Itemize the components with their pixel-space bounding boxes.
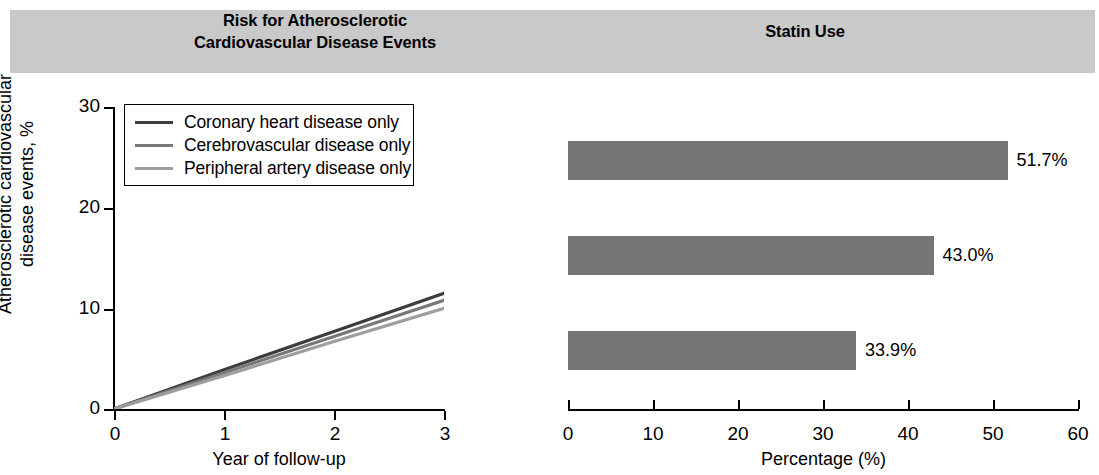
right-x-tick-label-60: 60 — [1055, 423, 1099, 445]
right-x-tick-0 — [568, 400, 570, 409]
bar-value-label-1: 51.7% — [1017, 150, 1068, 171]
bar-statin-use-3 — [568, 331, 856, 370]
right-x-axis-title: Percentage (%) — [568, 449, 1079, 470]
bar-statin-use-2 — [568, 236, 934, 275]
right-x-tick-label-50: 50 — [970, 423, 1016, 445]
right-x-tick-20 — [738, 400, 740, 409]
right-x-tick-label-10: 10 — [630, 423, 676, 445]
right-x-tick-60 — [1078, 400, 1080, 409]
right-x-axis-line — [568, 409, 1079, 411]
statin-bar-chart-panel: 0 10 20 30 40 50 60 Percentage (%) 51.7%… — [0, 0, 1099, 475]
right-x-tick-40 — [908, 400, 910, 409]
bar-value-label-3: 33.9% — [865, 340, 916, 361]
right-x-tick-label-20: 20 — [715, 423, 761, 445]
right-x-tick-30 — [823, 400, 825, 409]
right-x-tick-label-40: 40 — [885, 423, 931, 445]
right-x-tick-10 — [653, 400, 655, 409]
bar-value-label-2: 43.0% — [943, 245, 994, 266]
bar-statin-use-1 — [568, 141, 1008, 180]
right-x-tick-label-30: 30 — [800, 423, 846, 445]
right-x-tick-50 — [993, 400, 995, 409]
right-x-tick-label-0: 0 — [545, 423, 591, 445]
